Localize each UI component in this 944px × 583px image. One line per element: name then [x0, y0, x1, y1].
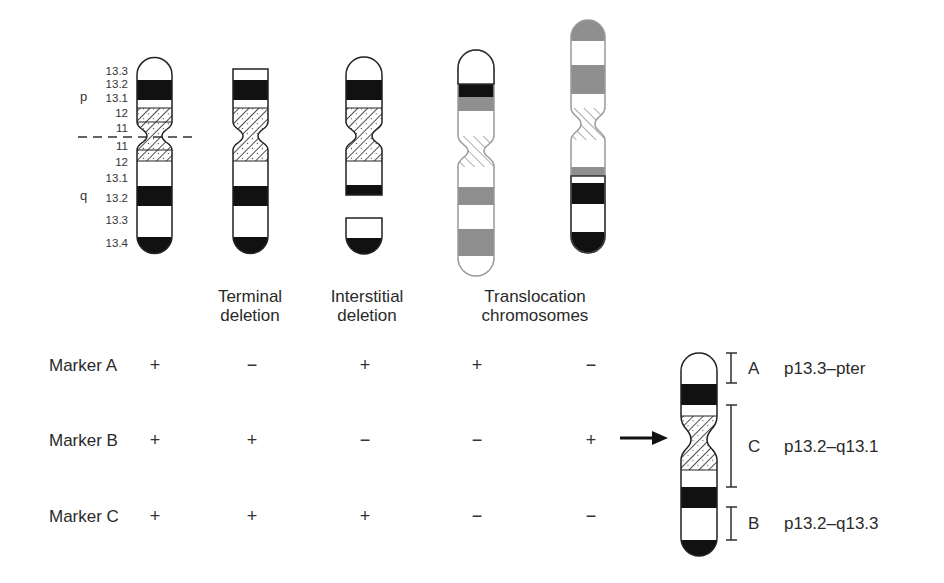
- marker-c-result: −: [467, 507, 487, 525]
- interstitial-deletion-chromosome: [340, 50, 390, 260]
- marker-b-result: +: [242, 431, 262, 449]
- translocation-chromosome-1: [450, 45, 500, 280]
- region-range-b: p13.2–q13.3: [784, 514, 879, 533]
- marker-b-result: −: [355, 431, 375, 449]
- region-range-a: p13.3–pter: [784, 359, 865, 378]
- region-range-c: p13.2–q13.1: [784, 437, 879, 456]
- marker-a-result: +: [467, 356, 487, 374]
- marker-c-label: Marker C: [49, 507, 119, 526]
- marker-c-result: −: [581, 507, 601, 525]
- band-label: 13.1: [88, 92, 128, 104]
- marker-c-result: +: [145, 507, 165, 525]
- band-label: 13.2: [88, 78, 128, 90]
- band-label: 12: [88, 107, 128, 119]
- terminal-deletion-chromosome: [225, 60, 275, 260]
- marker-a-result: +: [145, 356, 165, 374]
- marker-a-result: +: [355, 356, 375, 374]
- band-label: 11: [88, 140, 128, 152]
- bracket-c: [726, 405, 737, 487]
- marker-a-label: Marker A: [49, 356, 117, 375]
- region-letter-b: B: [748, 514, 759, 533]
- band-label: 13.1: [88, 172, 128, 184]
- marker-b-result: +: [145, 431, 165, 449]
- band-label: 13.3: [88, 214, 128, 226]
- arm-label-q: q: [80, 188, 87, 203]
- marker-b-result: +: [581, 431, 601, 449]
- caption-terminal-deletion: Terminal deletion: [200, 287, 300, 325]
- marker-b-label: Marker B: [49, 431, 118, 450]
- band-label: 12: [88, 156, 128, 168]
- band-label: 13.3: [88, 65, 128, 77]
- translocation-chromosome-2: [565, 15, 615, 260]
- band-label: 13.2: [88, 192, 128, 204]
- arm-label-p: p: [80, 89, 87, 104]
- map-chromosome: [675, 350, 725, 560]
- marker-b-result: −: [467, 431, 487, 449]
- marker-a-result: −: [242, 356, 262, 374]
- arrow-icon: [620, 431, 668, 445]
- band-label: 13.4: [88, 237, 128, 249]
- bracket-b: [726, 507, 737, 540]
- bracket-a: [726, 353, 737, 383]
- marker-c-result: +: [242, 507, 262, 525]
- normal-chromosome: [130, 50, 180, 260]
- marker-c-result: +: [355, 507, 375, 525]
- region-letter-c: C: [748, 437, 760, 456]
- caption-interstitial-deletion: Interstitial deletion: [312, 287, 422, 325]
- caption-translocation-chromosomes: Translocation chromosomes: [465, 287, 605, 325]
- marker-a-result: −: [581, 356, 601, 374]
- band-label: 11: [88, 122, 128, 134]
- region-letter-a: A: [748, 359, 759, 378]
